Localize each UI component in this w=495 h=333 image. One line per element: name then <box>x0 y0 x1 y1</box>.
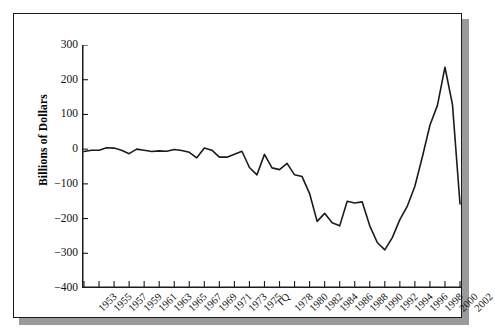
data-series-line <box>84 67 460 250</box>
y-axis-tick-label: −200 <box>36 213 78 225</box>
chart-panel: 3002001000−100−200−300−400 Billions of D… <box>13 13 462 318</box>
plot-area <box>82 45 462 288</box>
x-axis-ticks <box>84 281 460 287</box>
y-axis-title: Billions of Dollars <box>37 75 49 205</box>
x-axis-tick-labels: 1953195519571959196119631965196719691971… <box>82 291 472 333</box>
y-axis-tick-label: −300 <box>36 247 78 259</box>
line-chart-svg <box>82 45 462 288</box>
y-axis-tick-label: 300 <box>36 39 78 51</box>
y-axis-ticks <box>83 45 88 288</box>
y-axis-tick-label: −400 <box>36 282 78 294</box>
